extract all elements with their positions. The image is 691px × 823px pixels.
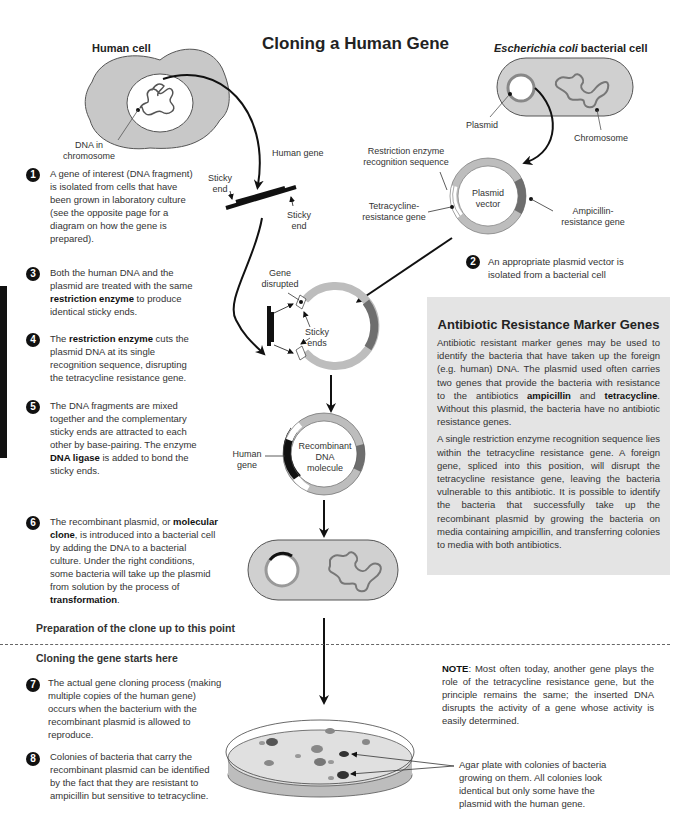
human-gene-line2: gene [230,460,264,471]
sticky-ends-label: Sticky ends [302,327,332,349]
step-6-text: The recombinant plasmid, or molecular cl… [50,515,220,606]
step-8-badge: 8 [26,752,40,766]
sticky-left-2: end [205,184,235,195]
step-7-text: The actual gene cloning process (making … [48,676,223,741]
dna-chromosome-label: DNA in chromosome [56,140,122,162]
sticky-right-1: Sticky [284,210,314,221]
step-3-badge: 3 [26,267,40,281]
restriction-line1: Restriction enzyme [362,146,450,157]
gene-disrupted-1: Gene [260,268,300,279]
step-4-badge: 4 [26,333,40,347]
ecoli-cell [490,58,633,130]
step-2-badge: 2 [466,255,480,269]
step-4-bold: restriction enzyme [69,333,153,344]
step-3-bold: restriction enzyme [50,293,134,304]
step-1-text: A gene of interest (DNA fragment) is iso… [50,167,198,245]
human-gene-fragment [226,187,296,208]
sticky-ends-1: Sticky [302,327,332,338]
step-7-badge: 7 [26,678,40,692]
ecoli-heading-rest: bacterial cell [578,42,648,54]
chromosome-label: Chromosome [574,133,628,144]
section-prep-heading: Preparation of the clone up to this poin… [36,622,235,634]
step-5-bold: DNA ligase [50,452,100,463]
step-6-pre: The recombinant plasmid, or [50,516,173,527]
plasmid-label: Plasmid [466,120,498,131]
gene-disrupted-2: disrupted [260,279,300,290]
sticky-end-right-label: Sticky end [284,210,314,232]
step-4-pre: The [50,333,69,344]
human-gene-label: Human gene [272,148,324,159]
marker-genes-box: Antibiotic Resistance Marker Genes Antib… [427,297,670,575]
human-gene-line1: Human [230,449,264,460]
marker-genes-title: Antibiotic Resistance Marker Genes [427,317,670,332]
ampicillin-gene-label: Ampicillin- resistance gene [558,206,628,228]
ecoli-species-name: Escherichia coli [494,42,578,54]
recombinant-line1: Recombinant [296,441,354,452]
step-3-pre: Both the human DNA and the plasmid are t… [50,267,193,291]
step-1-badge: 1 [26,168,40,182]
step-5-pre: The DNA fragments are mixed together and… [50,400,197,450]
note-label: NOTE [442,663,468,674]
dna-label-line2: chromosome [56,151,122,162]
recombinant-human-gene-label: Human gene [230,449,264,471]
step-3-text: Both the human DNA and the plasmid are t… [50,266,198,318]
step-4-text: The restriction enzyme cuts the plasmid … [50,332,198,384]
plasmid-vector-center-label: Plasmid vector [463,188,513,210]
tet-line2: resistance gene [360,212,428,223]
sticky-right-2: end [284,221,314,232]
transformed-bacterium [248,540,398,600]
step-6-bold2: transformation [50,594,117,605]
p1-tetracycline: tetracycline [605,390,658,401]
step-5-text: The DNA fragments are mixed together and… [50,399,208,477]
section-divider [0,644,670,645]
recombinant-center-label: Recombinant DNA molecule [296,441,354,474]
step-6-mid: , is introduced into a bacterial cell by… [50,529,215,592]
tetracycline-gene-label: Tetracycline- resistance gene [360,201,428,223]
sticky-end-left-label: Sticky end [205,173,235,195]
recombinant-line3: molecule [296,463,354,474]
step-6-badge: 6 [26,516,40,530]
human-cell-heading: Human cell [92,42,151,54]
ecoli-heading: Escherichia coli bacterial cell [494,42,647,54]
gene-disrupted-label: Gene disrupted [260,268,300,290]
agar-plate [226,720,454,797]
step-6-post: . [117,594,120,605]
human-cell [85,49,229,149]
dna-label-line1: DNA in [56,140,122,151]
section-cloning-heading: Cloning the gene starts here [36,652,178,664]
amp-line2: resistance gene [558,217,628,228]
sticky-ends-2: ends [302,338,332,349]
restriction-site-label: Restriction enzyme recognition sequence [362,146,450,168]
step-8-text: Colonies of bacteria that carry the reco… [50,750,215,802]
step-2-text: An appropriate plasmid vector is isolate… [488,255,638,281]
plasmid-vector-line2: vector [463,199,513,210]
plasmid-vector-line1: Plasmid [463,188,513,199]
restriction-line2: recognition sequence [362,157,450,168]
amp-line1: Ampicillin- [558,206,628,217]
tet-line1: Tetracycline- [360,201,428,212]
recombinant-line2: DNA [296,452,354,463]
step-5-badge: 5 [26,400,40,414]
marker-genes-paragraph-1: Antibiotic resistant marker genes may be… [437,336,660,428]
note-text: NOTE: Most often today, another gene pla… [442,662,654,727]
p1-mid: and [571,390,605,401]
marker-genes-paragraph-2: A single restriction enzyme recognition … [437,432,660,551]
cut-plasmid [267,286,375,366]
note-body: : Most often today, another gene plays t… [442,663,654,726]
agar-plate-caption: Agar plate with colonies of bacteria gro… [459,758,619,810]
p1-ampicillin: ampicillin [527,390,571,401]
sticky-left-1: Sticky [205,173,235,184]
